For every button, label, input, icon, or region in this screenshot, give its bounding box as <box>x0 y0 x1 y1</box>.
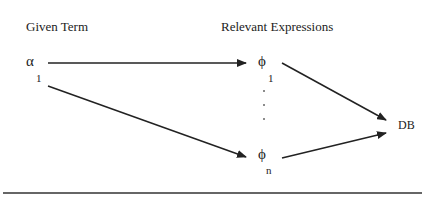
arrow-alpha-to-phin <box>48 86 246 157</box>
arrow-phi1-to-db <box>282 63 386 120</box>
arrow-phin-to-db <box>282 133 386 158</box>
diagram-arrows <box>0 0 436 199</box>
